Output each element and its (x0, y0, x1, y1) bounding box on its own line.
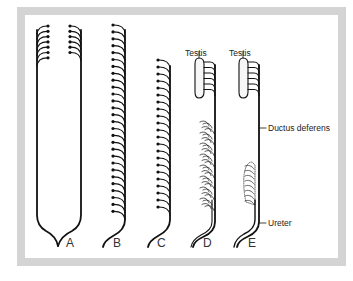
panel-c-label: C (157, 236, 166, 250)
testis-label-d: Testis (185, 48, 207, 58)
panel-a-label: A (66, 236, 74, 250)
panel-b-label: B (113, 236, 121, 250)
panel-c (148, 58, 170, 247)
panel-b (103, 23, 125, 247)
panel-e (234, 52, 266, 247)
ureter-label: Ureter (268, 218, 292, 228)
kidney-duct-evolution-diagram: A B C D E Testis Testis Ductus deferens … (0, 0, 353, 281)
panel-d-label: D (203, 236, 212, 250)
testis-label-e: Testis (229, 48, 251, 58)
panel-d (191, 52, 215, 247)
panel-a (37, 24, 81, 246)
panel-e-label: E (248, 236, 256, 250)
ductus-deferens-label: Ductus deferens (268, 123, 330, 133)
